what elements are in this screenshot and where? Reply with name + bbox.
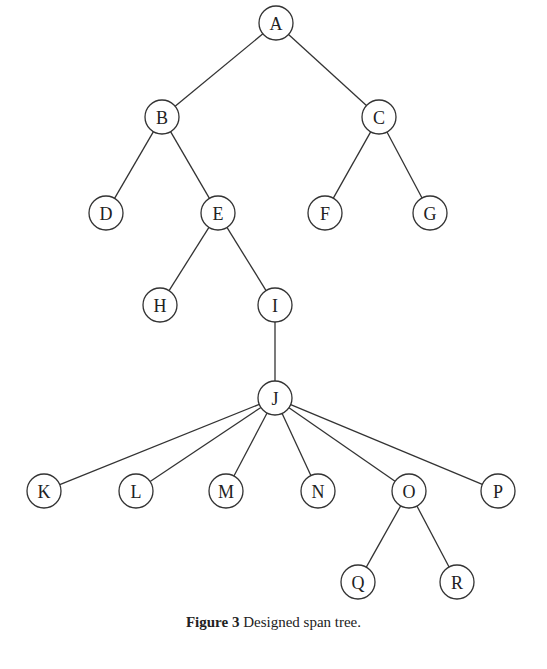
node-label: R	[451, 573, 463, 593]
span-tree-diagram: ABCDEFGHIJKLMNOPQR	[0, 0, 547, 669]
edge-J-L	[150, 407, 261, 481]
node-E: E	[201, 196, 235, 230]
node-M: M	[209, 474, 243, 508]
node-label: G	[424, 204, 437, 224]
figure-caption: Figure 3 Designed span tree.	[0, 614, 547, 631]
node-G: G	[413, 196, 447, 230]
edge-C-F	[333, 132, 370, 198]
node-label: P	[493, 482, 503, 502]
node-P: P	[481, 474, 515, 508]
node-label: F	[320, 204, 330, 224]
node-O: O	[392, 474, 426, 508]
tree-nodes: ABCDEFGHIJKLMNOPQR	[27, 6, 515, 599]
node-label: O	[403, 482, 416, 502]
node-N: N	[301, 474, 335, 508]
node-C: C	[362, 100, 396, 134]
node-F: F	[308, 196, 342, 230]
node-L: L	[119, 474, 153, 508]
node-A: A	[259, 6, 293, 40]
node-K: K	[27, 474, 61, 508]
edge-A-B	[175, 34, 263, 106]
node-Q: Q	[341, 565, 375, 599]
edge-B-E	[171, 132, 210, 199]
node-label: N	[312, 482, 325, 502]
node-I: I	[258, 288, 292, 322]
edge-J-K	[60, 404, 259, 484]
edge-O-R	[417, 506, 449, 567]
node-label: Q	[352, 573, 365, 593]
edge-C-G	[387, 132, 422, 198]
node-label: K	[38, 482, 51, 502]
node-label: M	[218, 482, 234, 502]
node-label: A	[270, 14, 283, 34]
node-label: B	[156, 108, 168, 128]
caption-text: Designed span tree.	[243, 614, 361, 630]
node-label: I	[272, 296, 278, 316]
edge-E-I	[227, 227, 266, 290]
edge-B-D	[115, 132, 154, 199]
node-label: C	[373, 108, 385, 128]
node-label: L	[131, 482, 142, 502]
node-R: R	[440, 565, 474, 599]
edge-E-H	[169, 227, 209, 290]
node-label: J	[271, 389, 278, 409]
node-label: H	[154, 296, 167, 316]
edge-O-Q	[366, 506, 400, 567]
node-label: E	[213, 204, 224, 224]
node-J: J	[258, 381, 292, 415]
node-B: B	[145, 100, 179, 134]
caption-label: Figure 3	[186, 614, 239, 630]
node-H: H	[143, 288, 177, 322]
edge-J-N	[282, 413, 311, 475]
edge-A-C	[289, 34, 367, 105]
node-label: D	[100, 204, 113, 224]
edge-J-O	[289, 408, 395, 482]
edge-J-P	[291, 405, 483, 485]
node-D: D	[89, 196, 123, 230]
